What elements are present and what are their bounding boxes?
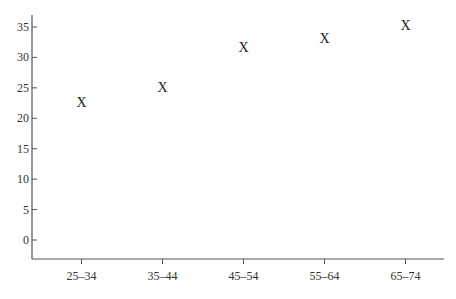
x-tick-label: 55–64 <box>310 269 340 283</box>
x-axis: 25–3435–4445–5455–6465–74 <box>32 259 444 283</box>
data-point-x-marker: X <box>319 31 329 46</box>
y-tick-label: 25 <box>17 81 29 95</box>
y-tick-label: 35 <box>17 20 29 34</box>
y-tick-label: 10 <box>17 172 29 186</box>
x-tick-label: 35–44 <box>148 269 178 283</box>
y-tick-label: 5 <box>23 203 29 217</box>
x-tick-label: 65–74 <box>391 269 421 283</box>
chart-canvas: 05101520253035 25–3435–4445–5455–6465–74… <box>0 0 456 299</box>
x-tick-label: 25–34 <box>67 269 97 283</box>
y-tick-label: 0 <box>23 233 29 247</box>
data-points: XXXXX <box>76 18 410 110</box>
y-tick-label: 15 <box>17 142 29 156</box>
y-axis: 05101520253035 <box>17 15 37 259</box>
data-point-x-marker: X <box>76 95 86 110</box>
y-tick-label: 30 <box>17 50 29 64</box>
x-tick-label: 45–54 <box>229 269 259 283</box>
y-tick-label: 20 <box>17 111 29 125</box>
data-point-x-marker: X <box>157 80 167 95</box>
scatter-chart: 05101520253035 25–3435–4445–5455–6465–74… <box>0 0 456 299</box>
data-point-x-marker: X <box>238 40 248 55</box>
data-point-x-marker: X <box>400 18 410 33</box>
